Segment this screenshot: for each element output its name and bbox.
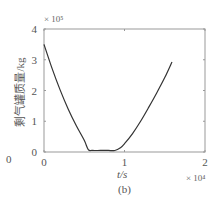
x-tick-label: 0	[41, 156, 47, 168]
y-tick-label: 4	[32, 23, 38, 35]
tick-labels: 01201234	[32, 23, 208, 168]
plot-frame	[44, 29, 205, 152]
x-tick-label: 2	[202, 156, 208, 168]
y-tick-label: 3	[32, 54, 38, 66]
y-axis-label: 剩气罐质量/kg	[13, 57, 26, 127]
y-multiplier: × 10⁵	[44, 14, 63, 24]
x-multiplier: × 10⁴	[186, 173, 205, 183]
origin-label: 0	[6, 153, 12, 165]
axis-ticks	[44, 29, 205, 152]
y-tick-label: 1	[32, 115, 38, 127]
caption: (b)	[118, 183, 131, 196]
chart: 01201234 × 10⁵ × 10⁴ t/s (b) 剩气罐质量/kg 0	[0, 0, 222, 206]
x-axis-label: t/s	[117, 168, 127, 180]
data-line	[44, 44, 172, 150]
y-tick-label: 0	[32, 146, 38, 158]
x-tick-label: 1	[122, 156, 128, 168]
y-tick-label: 2	[32, 85, 38, 97]
